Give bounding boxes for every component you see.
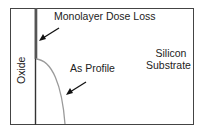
dopant-profile-diagram: Monolayer Dose Loss As Profile Silicon S… <box>0 0 204 135</box>
monolayer-arrow-head <box>39 34 46 41</box>
profile-arrow-head <box>66 88 73 95</box>
silicon-label-line1: Silicon <box>151 47 191 59</box>
oxide-label: Oxide <box>15 57 27 84</box>
monolayer-arrow-shaft <box>43 28 59 38</box>
as-profile-label: As Profile <box>70 62 115 74</box>
silicon-label-line2: Substrate <box>146 59 191 71</box>
silicon-substrate-label: Silicon Substrate <box>151 47 191 71</box>
profile-arrow-shaft <box>70 82 86 92</box>
as-profile-curve <box>36 59 65 124</box>
monolayer-dose-loss-label: Monolayer Dose Loss <box>54 10 156 22</box>
